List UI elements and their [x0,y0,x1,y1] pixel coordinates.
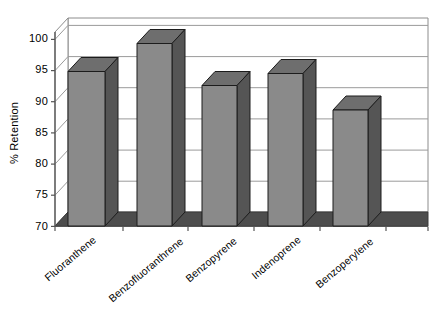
y-tick-label-70: 70 [18,220,48,232]
chart-canvas [0,0,445,321]
y-tick-label-95: 95 [18,63,48,75]
bar-indenoprene[interactable] [268,60,316,227]
y-tick-label-100: 100 [18,32,48,44]
bar-benzofluoranthrene[interactable] [137,30,185,227]
x-axis-line [55,226,428,231]
y-tick-label-80: 80 [18,157,48,169]
plot-side-wall [55,18,68,226]
y-tick-label-85: 85 [18,126,48,138]
bar-fluoranthene[interactable] [68,58,118,227]
bar-benzopyrene[interactable] [202,72,250,227]
y-tick-label-90: 90 [18,95,48,107]
bar-benzoperylene[interactable] [333,96,381,226]
y-tick-label-75: 75 [18,188,48,200]
bar-chart: % Retention 100 95 90 85 80 75 70 Fluora… [0,0,445,321]
